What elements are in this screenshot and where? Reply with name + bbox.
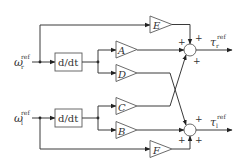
sign-plus: + xyxy=(178,37,186,47)
wire-to-C xyxy=(98,106,116,118)
gain-B-label: B xyxy=(117,126,125,137)
sign-plus: + xyxy=(193,56,201,66)
gain-E-label: E xyxy=(152,20,161,31)
wire-to-D xyxy=(98,62,116,73)
sign-plus: + xyxy=(195,114,203,124)
wire-to-B xyxy=(98,118,116,130)
gain-F-label: F xyxy=(152,145,161,156)
derivative-block-top-label: d/dt xyxy=(58,57,78,68)
svg-text:ref: ref xyxy=(21,53,30,60)
svg-text:ref: ref xyxy=(217,113,226,120)
wire-C-to-sum-top xyxy=(137,55,186,106)
svg-text:l: l xyxy=(21,119,23,126)
gain-A-label: A xyxy=(117,45,125,56)
svg-text:ref: ref xyxy=(21,109,30,116)
output-tau-l-label: τ l ref xyxy=(210,113,226,129)
gain-D-label: D xyxy=(117,69,126,80)
sign-plus: + xyxy=(195,33,203,43)
svg-text:l: l xyxy=(216,122,218,129)
summing-junction-top xyxy=(184,44,196,56)
wire-to-A xyxy=(98,50,116,62)
svg-text:r: r xyxy=(21,63,24,70)
sign-plus: + xyxy=(195,135,203,145)
gain-C-label: C xyxy=(118,102,126,113)
control-block-diagram: ω r ref d/dt E A D + + + τ r ref ω l ref xyxy=(0,0,244,168)
sign-plus: + xyxy=(178,135,186,145)
wire-D-to-sum-bottom xyxy=(137,73,186,125)
svg-text:ref: ref xyxy=(217,33,226,40)
input-omega-l-label: ω l ref xyxy=(14,109,30,126)
input-omega-r-label: ω r ref xyxy=(14,53,30,70)
svg-text:r: r xyxy=(216,42,219,49)
output-tau-r-label: τ r ref xyxy=(210,33,226,49)
derivative-block-bottom-label: d/dt xyxy=(58,113,78,124)
